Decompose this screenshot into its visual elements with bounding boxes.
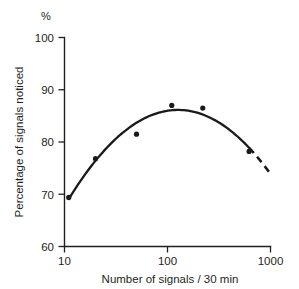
data-point	[247, 149, 252, 154]
data-point	[93, 156, 98, 161]
x-tick-label-100: 100	[158, 255, 177, 267]
y-tick-label-90: 90	[41, 84, 54, 96]
data-point	[200, 105, 205, 110]
chart-figure: % 100 90 80 70 60 10 100 1000 Number of …	[0, 0, 299, 289]
y-tick-label-100: 100	[35, 32, 54, 44]
data-point	[134, 132, 139, 137]
data-point-group	[66, 103, 252, 200]
fitted-curve-solid	[69, 110, 249, 199]
y-tick-label-60: 60	[41, 241, 54, 253]
y-tick-label-80: 80	[41, 136, 54, 148]
x-axis-title: Number of signals / 30 min	[102, 273, 239, 285]
y-tick-label-70: 70	[41, 189, 54, 201]
data-point	[169, 103, 174, 108]
fitted-curve-dashed	[249, 148, 270, 174]
x-tick-label-1000: 1000	[258, 255, 284, 267]
y-axis-unit-label: %	[41, 10, 51, 22]
x-tick-label-10: 10	[58, 255, 71, 267]
chart-plot-area: % 100 90 80 70 60 10 100 1000 Number of …	[0, 0, 299, 289]
y-axis-title: Percentage of signals noticed	[13, 67, 25, 218]
data-point	[66, 195, 71, 200]
